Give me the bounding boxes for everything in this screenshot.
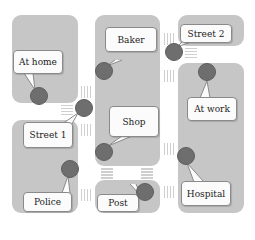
crosswalk: [81, 86, 92, 98]
node-shop[interactable]: [95, 143, 113, 161]
crosswalk: [164, 70, 175, 82]
label-street-1[interactable]: Street 1: [23, 122, 73, 148]
crosswalk: [164, 143, 175, 155]
node-hospital[interactable]: [177, 147, 195, 165]
node-at-work[interactable]: [198, 63, 216, 81]
crosswalk: [164, 186, 175, 198]
label-shop[interactable]: Shop: [109, 106, 159, 137]
label-police[interactable]: Police: [23, 192, 72, 212]
crosswalk: [81, 124, 92, 136]
label-baker[interactable]: Baker: [105, 27, 157, 52]
crosswalk: [185, 47, 197, 58]
label-at-work[interactable]: At work: [187, 97, 237, 121]
label-at-home[interactable]: At home: [13, 50, 63, 74]
crosswalk: [141, 168, 153, 179]
label-post[interactable]: Post: [97, 194, 139, 212]
label-street-2[interactable]: Street 2: [180, 24, 232, 43]
crosswalk: [101, 168, 113, 179]
node-baker[interactable]: [95, 62, 113, 80]
label-hospital[interactable]: Hospital: [181, 181, 231, 206]
node-post[interactable]: [136, 183, 154, 201]
crosswalk: [81, 189, 92, 201]
node-street-1-junction[interactable]: [75, 99, 93, 117]
node-street-2[interactable]: [165, 43, 183, 61]
node-at-home[interactable]: [30, 87, 48, 105]
crosswalk: [61, 104, 73, 115]
node-police[interactable]: [61, 160, 79, 178]
